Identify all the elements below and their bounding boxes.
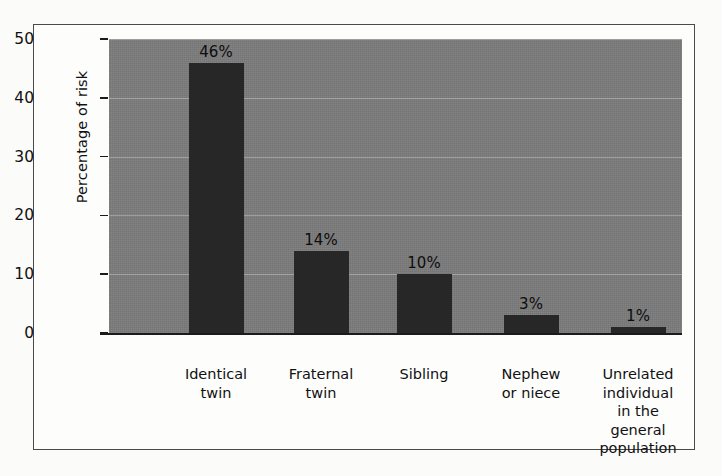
y-tick-mark — [100, 273, 108, 275]
y-tick-label: 40 — [0, 89, 34, 107]
y-tick-label: 50 — [0, 30, 34, 48]
bar-value-label: 14% — [304, 231, 337, 249]
bar — [189, 63, 244, 333]
y-axis-title: Percentage of risk — [74, 37, 90, 237]
y-tick-label: 0 — [0, 324, 34, 342]
y-tick-label: 10 — [0, 265, 34, 283]
y-tick-mark — [100, 215, 108, 217]
bar-value-label: 10% — [407, 254, 440, 272]
y-tick-mark — [100, 38, 108, 40]
category-label-line: Unrelated — [572, 365, 704, 384]
bar — [611, 327, 666, 333]
bar — [294, 251, 349, 333]
bar-value-label: 46% — [199, 43, 232, 61]
y-tick-label: 20 — [0, 206, 34, 224]
y-tick-label: 30 — [0, 148, 34, 166]
x-axis-line — [100, 333, 682, 335]
bar — [397, 274, 452, 333]
bar-value-label: 3% — [519, 295, 543, 313]
figure-frame: Percentage of risk 01020304050 46%14%10%… — [33, 24, 695, 450]
gridline — [109, 39, 682, 40]
bar-value-label: 1% — [626, 307, 650, 325]
x-axis-category-label: Unrelatedindividualin thegeneralpopulati… — [572, 365, 704, 458]
figure-page: Percentage of risk 01020304050 46%14%10%… — [0, 0, 722, 476]
category-label-line: in the — [572, 402, 704, 421]
category-label-line: general — [572, 421, 704, 440]
category-label-line: twin — [255, 384, 387, 403]
bar — [504, 315, 559, 333]
category-label-line: individual — [572, 384, 704, 403]
y-tick-mark — [100, 97, 108, 99]
category-label-line: population — [572, 439, 704, 458]
y-tick-mark — [100, 156, 108, 158]
